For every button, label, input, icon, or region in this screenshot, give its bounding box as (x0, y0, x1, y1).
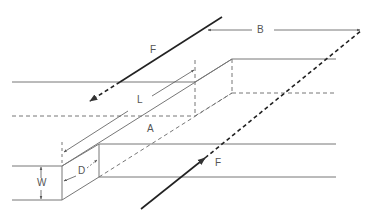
label-D: D (78, 166, 85, 176)
upper-slab (12, 59, 336, 116)
label-force-top: F (150, 45, 156, 55)
label-A: A (147, 124, 154, 134)
label-L: L (137, 95, 143, 105)
lower-slab (12, 144, 336, 200)
label-W: W (37, 178, 46, 188)
channel-diagram (0, 0, 376, 219)
label-force-bottom: F (215, 158, 221, 168)
force-top (90, 17, 222, 101)
force-bottom (141, 30, 362, 209)
label-B: B (257, 25, 264, 35)
